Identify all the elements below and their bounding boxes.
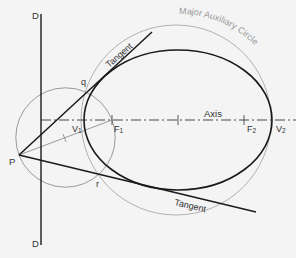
ellipse-tangent-diagram: D D P q r V1 F1 F2 V2 Axis Tangent Tange… [0, 0, 296, 258]
focus-1-label: F1 [114, 124, 124, 134]
directrix-label-bottom: D [32, 238, 39, 249]
directrix-label-top: D [32, 10, 39, 21]
vertex-1-label: V1 [72, 124, 82, 134]
point-r-label: r [96, 179, 99, 189]
line-p-f1 [19, 120, 112, 155]
point-p-label: P [9, 156, 15, 167]
axis-label: Axis [204, 108, 222, 119]
point-q-label: q [81, 77, 86, 87]
focus-2-label: F2 [247, 124, 257, 134]
vertex-2-label: V2 [276, 124, 286, 134]
